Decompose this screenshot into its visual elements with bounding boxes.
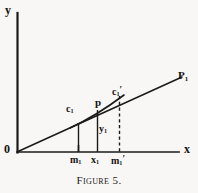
figure-5-container: y x 0 P1 c1 p c1′ y1 m1 x1 m1′ Figure 5. bbox=[0, 0, 198, 193]
point-label-p: p bbox=[95, 97, 101, 108]
figure-caption: Figure 5. bbox=[0, 174, 198, 186]
x-axis-label: x bbox=[184, 143, 190, 155]
point-label-c1-subscript: 1 bbox=[70, 107, 73, 114]
x-tick-label-x1: x1 bbox=[91, 155, 99, 166]
point-label-c1-prime-mark: ′ bbox=[120, 85, 123, 95]
point-label-p1: P1 bbox=[178, 70, 188, 82]
segment-label-y1: y1 bbox=[99, 124, 107, 135]
x-tick-label-x1-subscript: 1 bbox=[96, 158, 99, 165]
ray-op1-line bbox=[18, 77, 182, 152]
x-tick-label-m1-subscript: 1 bbox=[78, 158, 81, 165]
x-tick-label-m1-prime-mark: ′ bbox=[122, 154, 125, 164]
x-tick-label-m1-prime: m1′ bbox=[111, 155, 125, 166]
point-label-c1: c1 bbox=[66, 104, 74, 115]
segment-label-y1-subscript: 1 bbox=[104, 127, 107, 134]
y-axis-label: y bbox=[5, 4, 11, 16]
point-label-p1-base: P bbox=[178, 69, 185, 81]
point-label-p1-subscript: 1 bbox=[185, 75, 188, 82]
x-tick-label-m1: m1 bbox=[70, 155, 81, 166]
point-label-c1-prime: c1′ bbox=[112, 86, 122, 97]
origin-label: 0 bbox=[4, 143, 10, 155]
